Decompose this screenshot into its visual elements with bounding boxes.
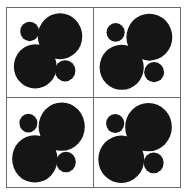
panel-top-right-small-lower-right xyxy=(144,62,164,82)
panel-top-right-small-upper-left xyxy=(106,23,124,42)
panel-bottom-left-small-upper-left xyxy=(19,113,37,132)
panel-top-left-small-lower-right xyxy=(55,60,76,81)
panel-bottom-left-large-lower-left xyxy=(12,135,57,182)
panel-bottom-right-plot xyxy=(94,98,181,188)
panel-bottom-left-plot xyxy=(7,98,93,188)
panel-top-left-large-lower-left xyxy=(14,44,57,88)
panel-bottom-right-small-upper-left xyxy=(106,114,124,133)
panel-bottom-right[interactable] xyxy=(94,98,181,188)
panel-bottom-right-canvas xyxy=(94,98,181,188)
panel-top-right-canvas xyxy=(94,8,181,97)
panel-top-left-plot xyxy=(7,8,93,97)
panel-grid xyxy=(7,8,180,187)
panel-bottom-left[interactable] xyxy=(7,98,94,188)
panel-top-left-small-upper-left xyxy=(20,22,39,41)
panel-top-right-large-lower-left xyxy=(99,45,143,90)
panel-top-right[interactable] xyxy=(94,8,181,98)
panel-bottom-right-large-lower-left xyxy=(98,135,144,182)
panel-bottom-left-small-lower-right xyxy=(56,151,76,172)
panel-bottom-left-canvas xyxy=(7,98,93,188)
figure-frame xyxy=(6,7,181,188)
panel-top-left[interactable] xyxy=(7,8,94,98)
screenshot-stage xyxy=(0,0,187,196)
panel-top-right-plot xyxy=(94,8,181,97)
panel-bottom-right-small-lower-right xyxy=(143,152,163,173)
panel-top-left-canvas xyxy=(7,8,93,97)
